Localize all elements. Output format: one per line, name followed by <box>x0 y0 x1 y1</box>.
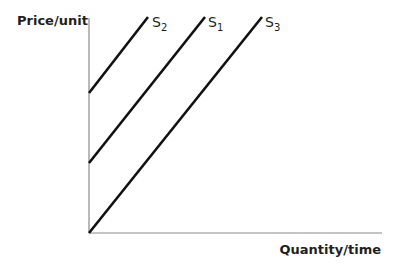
s2-label: S2 <box>152 14 167 33</box>
supply-curve-s2 <box>89 17 148 93</box>
supply-curve-s1 <box>89 17 205 163</box>
s3-label: S3 <box>265 14 280 33</box>
supply-curve-s3 <box>89 17 262 233</box>
supply-chart: S2 S1 S3 <box>0 0 403 266</box>
s1-label: S1 <box>208 14 223 33</box>
